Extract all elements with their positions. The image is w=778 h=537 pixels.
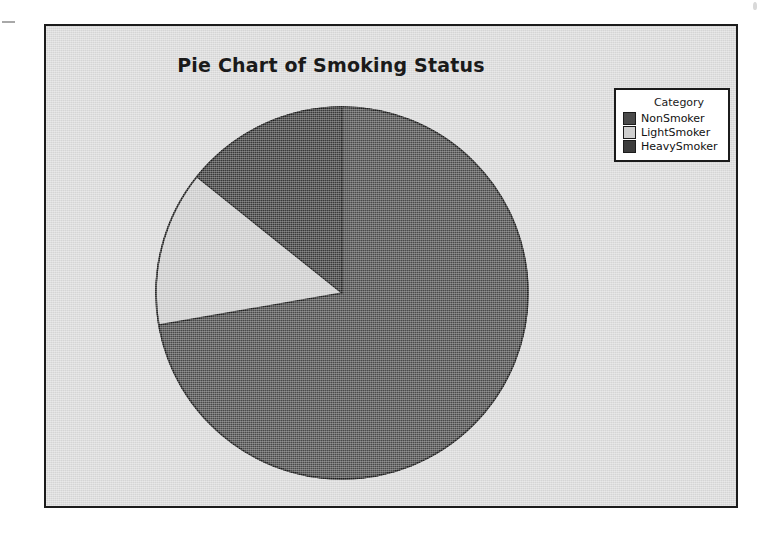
legend-item-heavysmoker[interactable]: HeavySmoker xyxy=(623,140,721,153)
legend-swatch-nonsmoker xyxy=(623,112,636,125)
chart-frame: Pie Chart of Smoking Status Category Non… xyxy=(44,24,738,508)
legend-title: Category xyxy=(637,96,721,109)
pie-chart xyxy=(154,105,530,481)
legend-swatch-heavysmoker xyxy=(623,140,636,153)
legend-label-heavysmoker: HeavySmoker xyxy=(641,140,718,153)
legend-item-lightsmoker[interactable]: LightSmoker xyxy=(623,126,721,139)
legend-swatch-lightsmoker xyxy=(623,126,636,139)
pie-svg xyxy=(154,105,530,481)
chart-title: Pie Chart of Smoking Status xyxy=(46,54,736,76)
legend-label-nonsmoker: NonSmoker xyxy=(641,112,705,125)
legend-item-nonsmoker[interactable]: NonSmoker xyxy=(623,112,721,125)
legend: Category NonSmoker LightSmoker HeavySmok… xyxy=(614,88,730,162)
legend-label-lightsmoker: LightSmoker xyxy=(641,126,710,139)
scan-artifact-speck-icon xyxy=(753,2,757,10)
scan-artifact-dash-icon xyxy=(2,21,15,23)
